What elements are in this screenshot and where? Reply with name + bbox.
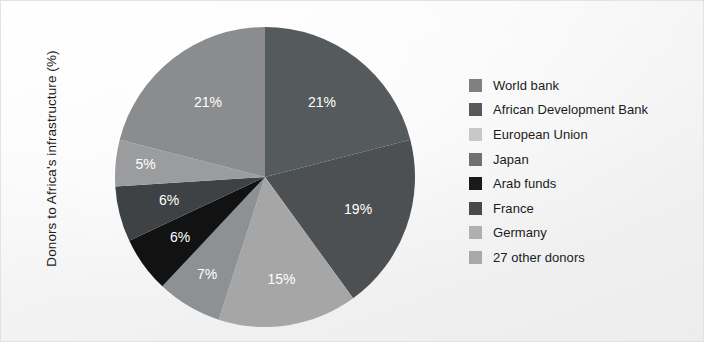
legend-swatch-icon bbox=[469, 153, 482, 166]
pie-slice-label: 15% bbox=[267, 271, 295, 287]
legend-swatch-icon bbox=[469, 128, 482, 141]
legend-swatch-icon bbox=[469, 79, 482, 92]
legend-item-label: African Development Bank bbox=[493, 102, 648, 117]
legend-swatch-icon bbox=[469, 202, 482, 215]
pie-slice-label: 21% bbox=[308, 94, 336, 110]
legend-item[interactable]: Arab funds bbox=[469, 171, 695, 196]
chart-legend: World bankAfrican Development BankEurope… bbox=[469, 73, 695, 270]
legend-item[interactable]: France bbox=[469, 196, 695, 221]
legend-item[interactable]: European Union bbox=[469, 122, 695, 147]
legend-item-label: Arab funds bbox=[493, 176, 556, 191]
pie-slice-group bbox=[115, 27, 415, 327]
pie-slice-label: 21% bbox=[194, 94, 222, 110]
pie-chart-svg: 21%19%15%7%6%6%5%21% bbox=[115, 27, 415, 327]
pie-slice-label: 7% bbox=[197, 266, 217, 282]
pie-slice-label: 19% bbox=[344, 201, 372, 217]
legend-item-label: 27 other donors bbox=[493, 250, 585, 265]
legend-swatch-icon bbox=[469, 177, 482, 190]
legend-swatch-icon bbox=[469, 226, 482, 239]
legend-item-label: World bank bbox=[493, 78, 559, 93]
pie-slice-label: 6% bbox=[170, 229, 190, 245]
pie-chart: 21%19%15%7%6%6%5%21% bbox=[115, 27, 415, 327]
legend-item[interactable]: World bank bbox=[469, 73, 695, 98]
legend-item[interactable]: 27 other donors bbox=[469, 245, 695, 270]
legend-item[interactable]: Germany bbox=[469, 221, 695, 246]
pie-slice-label: 6% bbox=[159, 192, 179, 208]
legend-item[interactable]: African Development Bank bbox=[469, 98, 695, 123]
chart-figure: Donors to Africa's infrastructure (%) 21… bbox=[0, 0, 704, 342]
legend-item-label: European Union bbox=[493, 127, 588, 142]
pie-slice-label: 5% bbox=[135, 156, 155, 172]
legend-item-label: France bbox=[493, 201, 534, 216]
legend-item-label: Japan bbox=[493, 152, 529, 167]
legend-swatch-icon bbox=[469, 251, 482, 264]
legend-swatch-icon bbox=[469, 103, 482, 116]
legend-item[interactable]: Japan bbox=[469, 147, 695, 172]
y-axis-title: Donors to Africa's infrastructure (%) bbox=[44, 29, 59, 289]
legend-item-label: Germany bbox=[493, 225, 547, 240]
